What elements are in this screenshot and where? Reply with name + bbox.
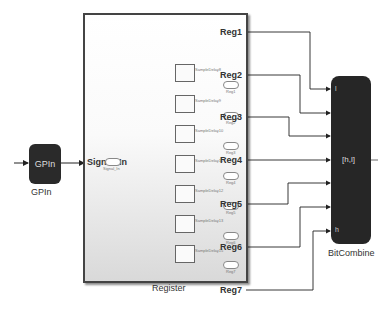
goto-tag: Reg5 — [226, 210, 236, 215]
sample-delay-block[interactable] — [175, 125, 195, 143]
register-caption: Register — [152, 283, 186, 293]
goto-block[interactable] — [223, 261, 239, 269]
bitcombine-center-label: [h,l] — [342, 155, 355, 164]
sample-delay-label: SampleDelay15 — [195, 248, 223, 253]
register-output-port-reg3: Reg3 — [220, 112, 242, 122]
sample-delay-block[interactable] — [175, 215, 195, 233]
goto-block[interactable] — [223, 172, 239, 180]
sample-delay-block[interactable] — [175, 64, 195, 82]
register-output-port-reg6: Reg6 — [220, 242, 242, 252]
register-output-port-reg7: Reg7 — [220, 285, 242, 295]
register-output-port-reg2: Reg2 — [220, 70, 242, 80]
signal-in-goto-block[interactable] — [105, 158, 121, 166]
register-output-port-reg1: Reg1 — [220, 27, 242, 37]
gpin-block[interactable]: GPIn — [29, 144, 61, 184]
sample-delay-block[interactable] — [175, 245, 195, 263]
bitcombine-port-l: l — [335, 85, 337, 92]
goto-block[interactable] — [223, 232, 239, 240]
goto-tag: Reg7 — [226, 269, 236, 274]
sample-delay-block[interactable] — [175, 185, 195, 203]
sample-delay-label: SampleDelay10 — [195, 128, 223, 133]
gpin-caption: GPIn — [31, 187, 52, 197]
gpin-block-label: GPIn — [35, 159, 56, 169]
goto-block[interactable] — [223, 142, 239, 150]
sample-delay-block[interactable] — [175, 95, 195, 113]
simulink-diagram-canvas: GPIn GPIn Register Signal_In Signal_In S… — [0, 0, 386, 332]
bitcombine-port-h: h — [335, 226, 339, 233]
signal-in-goto-tag: Signal_In — [103, 166, 120, 171]
sample-delay-label: SampleDelay9 — [195, 98, 221, 103]
register-output-port-reg5: Reg5 — [220, 199, 242, 209]
goto-block[interactable] — [223, 81, 239, 89]
bitcombine-block[interactable]: l [h,l] h — [331, 76, 371, 244]
sample-delay-label: SampleDelay8 — [195, 67, 221, 72]
goto-tag: Reg4 — [226, 180, 236, 185]
register-output-port-reg4: Reg4 — [220, 155, 242, 165]
bitcombine-caption: BitCombine — [328, 248, 375, 258]
sample-delay-label: SampleDelay12 — [195, 188, 223, 193]
goto-tag: Reg1 — [226, 89, 236, 94]
sample-delay-block[interactable] — [175, 155, 195, 173]
sample-delay-label: SampleDelay13 — [195, 218, 223, 223]
sample-delay-label: SampleDelay11 — [195, 158, 223, 163]
